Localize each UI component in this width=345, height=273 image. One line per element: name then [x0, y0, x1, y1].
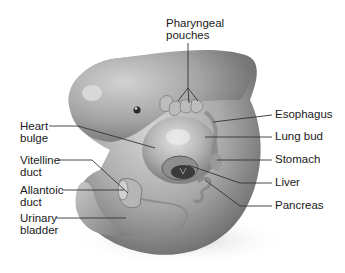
label-stomach: Stomach	[275, 154, 320, 166]
stomach	[210, 153, 222, 171]
label-text: Heart	[20, 121, 48, 133]
label-pancreas: Pancreas	[275, 200, 324, 212]
label-text: Stomach	[275, 154, 320, 166]
label-text: bladder	[20, 225, 58, 237]
label-allantoic-duct: Allantoic duct	[20, 185, 63, 208]
label-text: bulge	[20, 133, 48, 145]
label-text: pouches	[166, 30, 224, 42]
label-text: Pharyngeal	[166, 18, 224, 30]
label-vitelline-duct: Vitelline duct	[20, 155, 60, 178]
eye	[134, 107, 141, 114]
label-text: Liver	[275, 177, 300, 189]
embryo-diagram: Pharyngeal pouches Heart bulge Vitelline…	[0, 0, 345, 273]
label-text: Lung bud	[275, 131, 323, 143]
label-text: Allantoic	[20, 185, 63, 197]
label-text: duct	[20, 197, 63, 209]
label-text: Pancreas	[275, 200, 324, 212]
label-heart-bulge: Heart bulge	[20, 121, 48, 144]
label-text: duct	[20, 167, 60, 179]
label-text: Urinary	[20, 213, 58, 225]
label-text: Vitelline	[20, 155, 60, 167]
label-urinary-bladder: Urinary bladder	[20, 213, 58, 236]
label-esophagus: Esophagus	[275, 109, 333, 121]
label-text: Esophagus	[275, 109, 333, 121]
label-lung-bud: Lung bud	[275, 131, 323, 143]
label-pharyngeal-pouches: Pharyngeal pouches	[166, 18, 224, 41]
label-liver: Liver	[275, 177, 300, 189]
